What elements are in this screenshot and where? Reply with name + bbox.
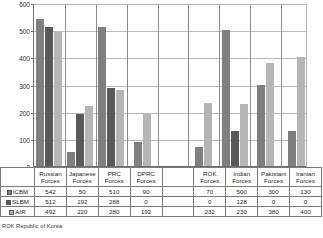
table-cell: 128 <box>226 197 258 207</box>
header-line-2: Forces <box>290 177 321 184</box>
table-cell: 492 <box>35 207 67 217</box>
bar-air-2 <box>116 90 124 166</box>
table-cell: 90 <box>130 187 162 197</box>
table-cell-spacer <box>162 197 194 207</box>
table-header-prc: PRCForces <box>98 168 130 187</box>
table-cell: 300 <box>258 187 290 197</box>
bar-air-1 <box>85 106 93 166</box>
table-cell: 0 <box>130 197 162 207</box>
chart-page: 6005004003002001000 RussianForcesJapanes… <box>0 0 323 238</box>
table-cell: 380 <box>258 207 290 217</box>
table-header-pakistani: PakistaniForces <box>258 168 290 187</box>
bar-icbm-0 <box>36 19 44 166</box>
bar-air-0 <box>54 32 62 166</box>
header-line-2: Forces <box>131 177 162 184</box>
table-row: ICBM542505109070500300130 <box>1 187 322 197</box>
legend-swatch-icon <box>7 190 12 195</box>
table-cell: 510 <box>98 187 130 197</box>
header-line-1: PRC <box>99 170 130 177</box>
chart-footnote: ROK Republic of Korea <box>2 223 62 230</box>
bar-icbm-1 <box>67 152 75 166</box>
bar-air-7 <box>266 63 274 166</box>
bars-layer <box>34 5 306 166</box>
legend-item-air[interactable]: AIR <box>1 207 35 217</box>
table-cell: 512 <box>35 197 67 207</box>
bar-slbm-2 <box>107 88 115 166</box>
y-tick-label-100: 100 <box>4 136 30 143</box>
table-cell: 400 <box>290 207 322 217</box>
bar-air-5 <box>204 103 212 166</box>
bar-group-japanese-forces <box>65 5 96 166</box>
bar-slbm-1 <box>76 114 84 166</box>
table-cell: 220 <box>66 207 98 217</box>
header-line-1: ROK <box>194 170 225 177</box>
bar-slbm-0 <box>45 27 53 166</box>
bar-group-prc-forces <box>96 5 127 166</box>
header-line-2: Forces <box>99 177 130 184</box>
bar-air-6 <box>240 104 248 166</box>
table-header-indian: IndianForces <box>226 168 258 187</box>
legend-item-slbm[interactable]: SLBM <box>1 197 35 207</box>
header-line-2: Forces <box>35 177 66 184</box>
header-line-1: Russian <box>35 170 66 177</box>
table-cell: 70 <box>194 187 226 197</box>
header-line-1: Indian <box>226 170 257 177</box>
table-header-rok: ROKForces <box>194 168 226 187</box>
header-line-1: Japanese <box>67 170 98 177</box>
header-line-2: Forces <box>258 177 289 184</box>
bar-group-indian-forces <box>219 5 250 166</box>
table-cell: 542 <box>35 187 67 197</box>
bar-icbm-7 <box>257 85 265 167</box>
table-cell-spacer <box>162 187 194 197</box>
bar-group-russian-forces <box>34 5 65 166</box>
table-header-spacer <box>162 168 194 187</box>
bar-icbm-2 <box>98 27 106 166</box>
legend-label: SLBM <box>12 198 29 205</box>
header-line-2: Forces <box>67 177 98 184</box>
y-tick-label-400: 400 <box>4 55 30 62</box>
table-cell: 232 <box>194 207 226 217</box>
legend-item-icbm[interactable]: ICBM <box>1 187 35 197</box>
header-line-1: Pakistani <box>258 170 289 177</box>
table-row: AIR492220280192232230380400 <box>1 207 322 217</box>
legend-swatch-icon <box>9 210 14 215</box>
table-cell: 192 <box>66 197 98 207</box>
bar-icbm-3 <box>134 142 142 166</box>
bar-group-inner <box>250 5 281 166</box>
chart-plot-area: 6005004003002001000 <box>0 4 323 174</box>
table-header-japanese: JapaneseForces <box>66 168 98 187</box>
table-cell: 130 <box>290 187 322 197</box>
y-tick-label-200: 200 <box>4 109 30 116</box>
bar-group-spacer <box>158 5 189 166</box>
table-header-iranian: IranianForces <box>290 168 322 187</box>
legend-swatch-icon <box>6 200 11 205</box>
table-cell: 230 <box>226 207 258 217</box>
y-tick-label-500: 500 <box>4 28 30 35</box>
bar-group-inner <box>65 5 96 166</box>
header-line-1: Iranian <box>290 170 321 177</box>
header-line-1: DPRC <box>131 170 162 177</box>
table-cell: 50 <box>66 187 98 197</box>
bar-group-inner <box>127 5 158 166</box>
plot-frame <box>33 4 307 167</box>
table-header-russian: RussianForces <box>35 168 67 187</box>
bar-group-inner <box>188 5 219 166</box>
bar-slbm-6 <box>231 131 239 166</box>
y-tick-label-600: 600 <box>4 1 30 8</box>
table-cell: 280 <box>98 207 130 217</box>
legend-label: AIR <box>15 208 25 215</box>
table-cell: 192 <box>130 207 162 217</box>
bar-group-inner <box>219 5 250 166</box>
y-tick-label-300: 300 <box>4 82 30 89</box>
legend-label: ICBM <box>13 188 28 195</box>
bar-group-inner <box>281 5 312 166</box>
table-row: SLBM5121922880012800 <box>1 197 322 207</box>
bar-group-rok-forces <box>188 5 219 166</box>
table-cell: 288 <box>98 197 130 207</box>
bar-air-3 <box>143 114 151 166</box>
header-line-2: Forces <box>194 177 225 184</box>
bar-group-pakistani-forces <box>250 5 281 166</box>
table-cell: 500 <box>226 187 258 197</box>
bar-group-dprc-forces <box>127 5 158 166</box>
table-header-row: RussianForcesJapaneseForcesPRCForcesDPRC… <box>1 168 322 187</box>
